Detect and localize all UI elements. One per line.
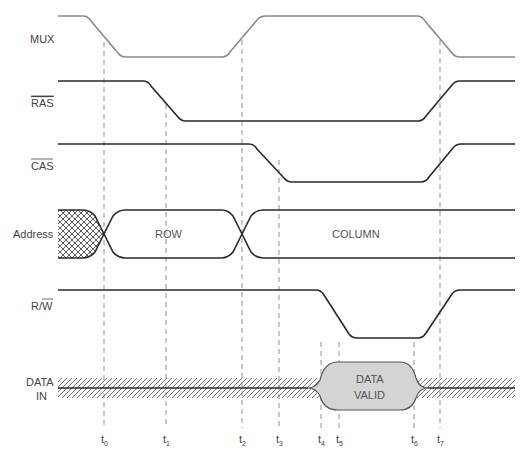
t6-marker: t6 [411,433,418,447]
t1-marker: t1 [163,433,170,447]
timing-diagram: MUX RAS CAS ROW COLUMN Address R/W DATA … [0,0,530,461]
address-lower-edge [58,234,515,258]
t0-marker: t0 [101,433,108,447]
mux-waveform [58,16,515,57]
data-in-label-line2: IN [36,390,47,402]
t7-marker: t7 [437,433,444,447]
address-bus: ROW COLUMN [58,210,515,258]
cas-label: CAS [31,160,54,172]
data-valid-line1: DATA [356,373,384,385]
data-valid-box [308,362,428,410]
address-crosshatch-region [58,210,108,258]
data-valid-line2: VALID [354,389,385,401]
rw-label: R/W [31,300,53,312]
row-value: ROW [155,228,183,240]
cas-waveform [58,144,515,182]
ras-waveform [58,81,515,121]
rw-label-w: W [42,300,53,312]
address-label: Address [13,228,54,240]
t2-marker: t2 [239,433,246,447]
ras-label: RAS [31,97,54,109]
t4-marker: t4 [318,433,325,447]
rw-waveform [58,290,515,338]
t5-marker: t5 [336,433,343,447]
time-markers: t0 t1 t2 t3 t4 t5 t6 t7 [101,433,444,447]
data-in-bus: DATA VALID [58,362,515,410]
address-upper-edge [58,210,515,234]
t3-marker: t3 [276,433,283,447]
column-value: COLUMN [332,228,380,240]
data-in-label-line1: DATA [26,376,54,388]
mux-label: MUX [30,33,55,45]
